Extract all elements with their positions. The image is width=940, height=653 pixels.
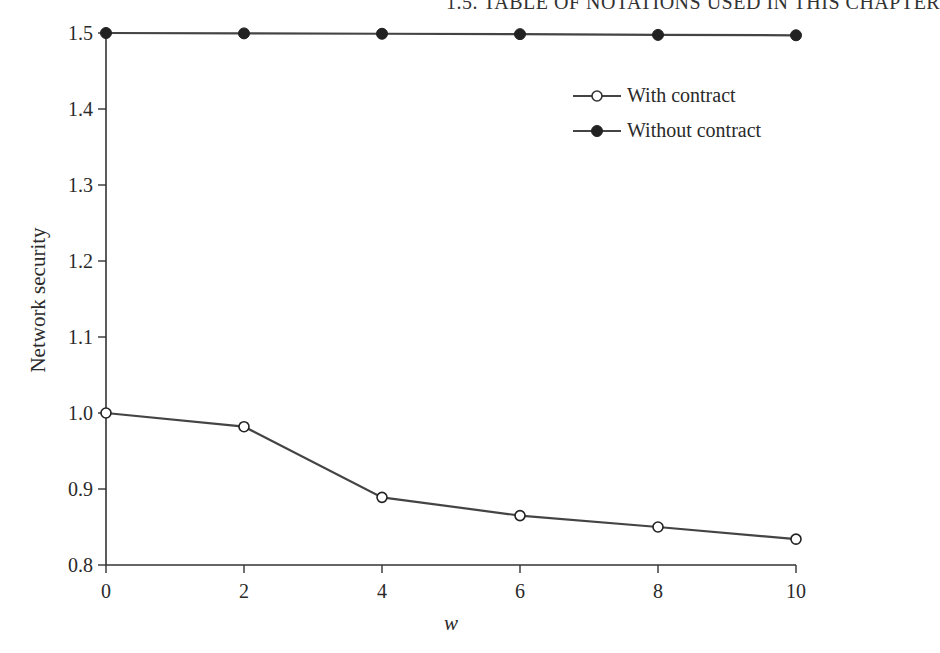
- open-circle-icon: [515, 511, 525, 521]
- x-tick-label: 0: [101, 580, 111, 602]
- y-tick-label: 0.8: [68, 554, 93, 576]
- filled-circle-icon: [377, 28, 388, 39]
- filled-circle-icon: [653, 29, 664, 40]
- legend-item-with-contract: With contract: [573, 84, 736, 106]
- y-tick-label: 1.1: [68, 326, 93, 348]
- filled-circle-icon: [791, 30, 802, 41]
- y-tick-label: 1.5: [68, 22, 93, 44]
- x-tick-label: 4: [377, 580, 387, 602]
- x-tick-label: 10: [786, 580, 806, 602]
- legend-item-without-contract: Without contract: [573, 119, 762, 141]
- y-tick-label: 1.3: [68, 174, 93, 196]
- y-tick-label: 1.4: [68, 98, 93, 120]
- x-tick-label: 8: [653, 580, 663, 602]
- filled-circle-icon: [515, 29, 526, 40]
- x-tick-label: 2: [239, 580, 249, 602]
- y-axis-label: Network security: [26, 227, 50, 373]
- open-circle-icon: [239, 422, 249, 432]
- legend-label-with-contract: With contract: [627, 84, 736, 106]
- series-line-with-contract: [106, 413, 796, 539]
- y-tick-label: 0.9: [68, 478, 93, 500]
- x-tick-label: 6: [515, 580, 525, 602]
- open-circle-icon: [377, 492, 387, 502]
- open-circle-icon: [101, 408, 111, 418]
- filled-circle-icon: [592, 126, 603, 137]
- open-circle-icon: [653, 522, 663, 532]
- open-circle-icon: [592, 91, 602, 101]
- open-circle-icon: [791, 534, 801, 544]
- series-line-without-contract: [106, 33, 796, 35]
- x-axis-label: w: [444, 611, 458, 635]
- chart-legend: With contract Without contract: [573, 84, 762, 141]
- filled-circle-icon: [239, 28, 250, 39]
- filled-circle-icon: [101, 28, 112, 39]
- chart-axes: 0.80.91.01.11.21.31.41.50246810: [68, 22, 806, 602]
- y-tick-label: 1.0: [68, 402, 93, 424]
- y-tick-label: 1.2: [68, 250, 93, 272]
- legend-label-without-contract: Without contract: [627, 119, 762, 141]
